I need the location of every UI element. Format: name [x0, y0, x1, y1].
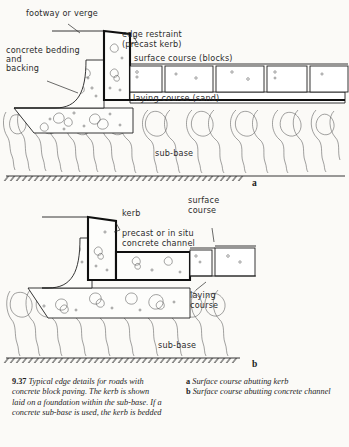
- surface-course-blocks-b: [190, 246, 256, 276]
- key-text-a: Surface course abutting kerb: [192, 377, 288, 386]
- key-marker-b: b: [186, 387, 191, 396]
- diagram-a: footway or verge concrete bedding and ba…: [0, 0, 349, 200]
- label-edge-restraint-line2-a: (precast kerb): [122, 39, 182, 49]
- label-kerb-b: kerb: [122, 208, 141, 218]
- kerb-foundation-b: [28, 288, 190, 318]
- key-item-b: b Surface course abutting concrete chann…: [186, 387, 341, 397]
- key-text-b: Surface course abutting concrete channel: [193, 387, 331, 396]
- label-footway-a: footway or verge: [26, 8, 98, 18]
- label-laying-course-line1-b: laying: [190, 290, 216, 300]
- figure-caption-text: Typical edge details for roads with conc…: [12, 377, 162, 417]
- figure-number: 9.37: [12, 377, 27, 386]
- figure-caption-left: 9.37 Typical edge details for roads with…: [12, 377, 164, 419]
- figure-marker-a: a: [252, 178, 257, 188]
- label-surface-course-line1-b: surface: [188, 195, 219, 205]
- key-item-a: a Surface course abutting kerb: [186, 377, 341, 387]
- kerb-b: [88, 217, 116, 280]
- laying-course-leader-b: [196, 282, 206, 290]
- surface-course-blocks-a: [130, 66, 348, 92]
- label-edge-restraint-line1-a: edge restraint: [122, 29, 182, 39]
- surface-course-leader-b: [212, 228, 214, 242]
- diagram-b: kerb precast or in situ concrete channel…: [0, 190, 349, 375]
- footway-leader-a: [68, 24, 80, 33]
- formation-line-b: [4, 358, 240, 363]
- concrete-channel-b: [116, 252, 190, 280]
- label-laying-course-line2-b: course: [190, 300, 218, 310]
- label-sub-base-a: sub-base: [155, 148, 193, 158]
- label-surface-course-line2-b: course: [188, 205, 216, 215]
- label-surface-course-a: surface course (blocks): [134, 53, 233, 63]
- label-channel-line2-b: concrete channel: [122, 238, 195, 248]
- figure-caption-key: a Surface course abutting kerb b Surface…: [186, 377, 341, 398]
- figure-page: footway or verge concrete bedding and ba…: [0, 0, 349, 447]
- label-laying-course-a: laying course (sand): [133, 93, 219, 103]
- label-channel-line1-b: precast or in situ: [122, 228, 194, 238]
- bedding-leader-a: [47, 81, 78, 93]
- key-marker-a: a: [186, 377, 190, 386]
- concrete-haunch-b: [42, 238, 92, 288]
- figure-marker-b: b: [252, 359, 257, 369]
- label-bedding-line3-a: backing: [6, 63, 39, 73]
- label-sub-base-b: sub-base: [158, 340, 196, 350]
- formation-line-a: [4, 176, 345, 181]
